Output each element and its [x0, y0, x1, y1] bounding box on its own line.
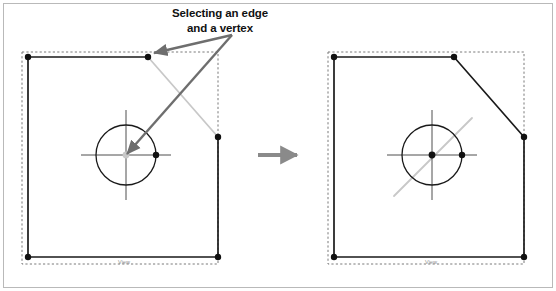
right-vertex-top-left[interactable] [331, 54, 337, 60]
diagram-canvas [0, 0, 556, 291]
right-panel-bounds [328, 52, 524, 264]
right-circle-center-point[interactable] [429, 152, 436, 159]
annotation-arrow-to-edge [154, 35, 232, 53]
right-vertex-chamfer-right[interactable] [521, 134, 527, 140]
right-vertex-bottom-right[interactable] [521, 254, 527, 260]
right-panel [328, 52, 527, 264]
left-vertex-bottom-right[interactable] [215, 254, 221, 260]
left-shape-outline [28, 57, 218, 257]
left-panel [22, 35, 232, 264]
right-panel-view-label: View [411, 259, 451, 265]
right-vertex-top-right[interactable] [451, 54, 457, 60]
figure-root: Selecting an edge and a vertex View View [0, 0, 556, 291]
figure-caption: Selecting an edge and a vertex [155, 6, 285, 35]
left-panel-view-label: View [104, 259, 144, 265]
left-vertex-bottom-left[interactable] [25, 254, 31, 260]
left-circle-quadrant-point[interactable] [153, 152, 159, 158]
figure-caption-line-1: Selecting an edge [155, 6, 285, 21]
left-vertex-top-right[interactable] [145, 54, 151, 60]
left-vertex-top-left[interactable] [25, 54, 31, 60]
left-selected-edge[interactable] [148, 57, 218, 137]
right-shape-outline [334, 57, 524, 257]
right-vertex-bottom-left[interactable] [331, 254, 337, 260]
right-circle-quadrant-point[interactable] [459, 152, 465, 158]
left-vertex-chamfer-right[interactable] [215, 134, 221, 140]
figure-caption-line-2: and a vertex [155, 21, 285, 36]
